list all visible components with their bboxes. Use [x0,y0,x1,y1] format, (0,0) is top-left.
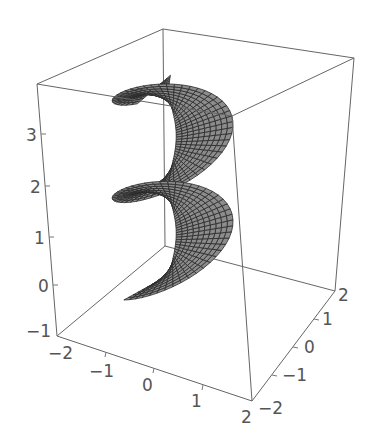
z-tick-label: 0 [38,276,49,296]
spiral-surface [112,75,233,300]
x-axis: −2 −1 0 1 2 [48,343,252,427]
z-tick-label: −1 [26,321,51,341]
z-axis: 3 2 1 0 −1 [26,125,58,341]
y-tick-label: −2 [258,398,283,418]
y-tick-label: 1 [322,309,333,329]
3d-spiral-plot: 3 2 1 0 −1 −2 −1 0 1 2 −2 −1 0 1 2 [0,0,372,442]
x-tick-label: 0 [142,375,153,395]
y-axis: −2 −1 0 1 2 [258,285,349,418]
z-tick-label: 3 [26,125,37,145]
y-tick-label: 0 [304,337,315,357]
y-tick-label: 2 [338,285,349,305]
x-tick-label: 2 [241,407,252,427]
surface-patch [166,84,174,87]
x-tick-label: 1 [191,391,202,411]
surface-patch [174,84,182,88]
bounding-box-back [57,29,335,336]
z-tick-label: 2 [30,177,41,197]
surface-patch [158,84,167,87]
z-tick-label: 1 [34,228,45,248]
surface-patch [160,181,168,184]
y-tick-label: −1 [282,365,307,385]
surface-patch [168,181,176,184]
x-tick-label: −2 [48,343,73,363]
x-tick-label: −1 [89,361,114,381]
